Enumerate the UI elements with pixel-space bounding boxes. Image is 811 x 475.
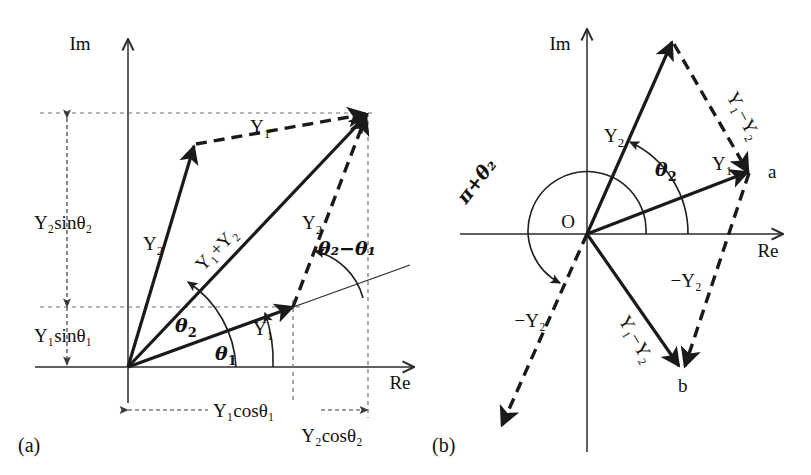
panel-b-label-minus-y2-left: −Y₂ xyxy=(514,310,545,331)
panel-a-label-y2-right: Y2 xyxy=(302,212,322,237)
panel-a-re-label: Re xyxy=(389,372,410,393)
panel-a-label-y2-left: Y2 xyxy=(143,233,163,258)
panel-b-label-y1: Y1 xyxy=(712,153,732,178)
panel-b-arc-theta2 xyxy=(630,142,688,234)
panel-a-label-y1-lower: Y1 xyxy=(253,318,273,343)
panel-b-label-point-b: b xyxy=(678,375,688,396)
panel-a-label-y1-dashed: Y1 xyxy=(250,116,270,141)
panel-a-tag: (a) xyxy=(18,434,40,457)
panel-b-im-label: Im xyxy=(549,33,570,54)
panel-a: Im Re Y1 xyxy=(18,33,413,457)
panel-b-tag: (b) xyxy=(432,434,455,457)
panel-b: Im Re O Y2 Y1 xyxy=(432,30,782,457)
panel-a-label-theta-diff: θ₂−θ₁ xyxy=(318,237,376,259)
panel-a-label-y2-cos-theta2: Y₂cosθ₂ xyxy=(301,425,362,446)
panel-b-label-theta2: θ2 xyxy=(655,158,677,184)
panel-b-label-point-a: a xyxy=(768,161,777,182)
panel-a-label-y1-plus-y2: Y₁+Y₂ xyxy=(191,223,242,275)
panel-a-label-y1-cos-theta1: Y₁cosθ₁ xyxy=(213,400,274,421)
panel-a-vector-y1-dashed xyxy=(196,114,366,144)
panel-a-label-y2-sin-theta2: Y₂sinθ₂ xyxy=(34,212,92,233)
panel-b-label-y1-minus-y2-dashed: Y₁−Y₂ xyxy=(722,88,765,143)
figure-canvas: Im Re Y1 xyxy=(0,0,811,475)
panel-a-label-y1-sin-theta1: Y₁sinθ₁ xyxy=(34,325,92,346)
panel-b-origin-label: O xyxy=(561,211,575,232)
panel-b-label-y1-minus-y2-solid: Y₁−Y₂ xyxy=(615,312,659,367)
panel-b-label-minus-y2-right: −Y₂ xyxy=(670,270,701,291)
panel-b-label-pi-plus-theta2: π+θ₂ xyxy=(451,154,500,208)
panel-a-im-label: Im xyxy=(69,33,90,54)
panel-b-re-label: Re xyxy=(757,240,778,261)
panel-a-label-theta2: θ2 xyxy=(175,314,197,340)
panel-b-label-y2: Y2 xyxy=(604,125,624,150)
panel-a-extension-line xyxy=(285,265,410,310)
phasor-figure-svg: Im Re Y1 xyxy=(0,0,811,475)
